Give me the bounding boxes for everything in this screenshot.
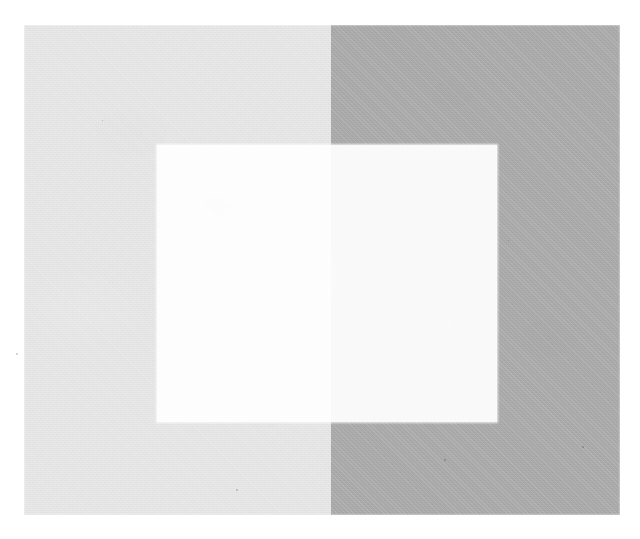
test-patch-left-half — [157, 145, 331, 422]
test-patch-right-half — [331, 145, 497, 422]
test-patch-square — [157, 145, 497, 422]
illusion-figure-canvas — [0, 0, 640, 539]
scan-speck — [16, 353, 18, 355]
